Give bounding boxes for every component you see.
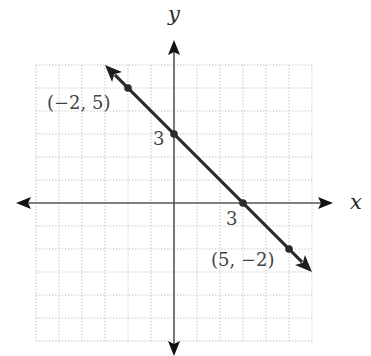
data-point (285, 245, 293, 253)
data-point (124, 84, 132, 92)
data-point (239, 199, 247, 207)
data-point (170, 130, 178, 138)
x-axis-label: x (350, 190, 362, 214)
x-intercept-label: 3 (226, 208, 237, 229)
plotted-line (115, 75, 302, 262)
line-series (105, 65, 312, 272)
coordinate-plane: x y (−2, 5) 3 3 (5, −2) (0, 0, 371, 356)
point-label-neg2-5: (−2, 5) (47, 92, 110, 113)
y-axis-label: y (167, 2, 181, 26)
point-label-5-neg2: (5, −2) (211, 249, 274, 270)
y-intercept-label: 3 (153, 128, 164, 149)
